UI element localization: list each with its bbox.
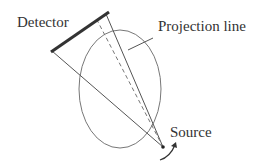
source-point (161, 145, 165, 149)
edge-ray-line (52, 51, 163, 147)
source-label: Source (170, 124, 212, 140)
central-ray-dashed (97, 20, 163, 147)
ct-projection-diagram: Detector Projection line Source (0, 0, 265, 168)
detector-label: Detector (17, 14, 69, 30)
projection-line-label: Projection line (158, 18, 246, 34)
